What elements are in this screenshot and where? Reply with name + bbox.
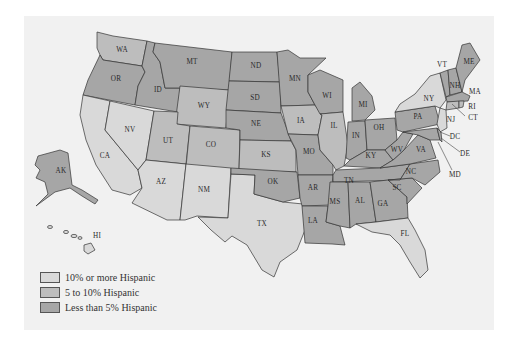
- label-ND: ND: [251, 62, 262, 70]
- label-SC: SC: [392, 184, 401, 192]
- legend-item-low: Less than 5% Hispanic: [40, 300, 157, 315]
- label-MD: MD: [449, 171, 461, 179]
- state-NJ: [437, 108, 447, 132]
- legend-swatch-mid: [40, 287, 60, 298]
- label-KY: KY: [366, 152, 377, 160]
- legend-label-mid: 5 to 10% Hispanic: [65, 287, 139, 298]
- label-AR: AR: [308, 184, 318, 192]
- label-NC: NC: [406, 168, 416, 176]
- label-DE: DE: [460, 150, 470, 158]
- state-AK: [35, 150, 98, 206]
- legend-item-high: 10% or more Hispanic: [40, 270, 157, 285]
- state-AZ: [132, 160, 186, 220]
- label-MN: MN: [289, 75, 302, 83]
- legend-item-mid: 5 to 10% Hispanic: [40, 285, 157, 300]
- label-ME: ME: [463, 58, 475, 66]
- legend-label-low: Less than 5% Hispanic: [65, 302, 157, 313]
- state-FL: [356, 218, 428, 278]
- label-NV: NV: [125, 126, 136, 134]
- state-RI: [459, 101, 464, 108]
- label-MT: MT: [186, 58, 198, 66]
- label-NJ: NJ: [447, 116, 455, 124]
- label-UT: UT: [163, 137, 173, 145]
- label-NE: NE: [251, 120, 261, 128]
- label-CT: CT: [468, 114, 478, 122]
- label-HI: HI: [93, 232, 101, 240]
- label-MA: MA: [469, 88, 482, 96]
- label-VT: VT: [437, 61, 447, 69]
- label-WV: WV: [391, 146, 404, 154]
- legend-swatch-low: [40, 302, 60, 313]
- label-IA: IA: [297, 117, 306, 125]
- label-NH: NH: [450, 82, 461, 90]
- label-ID: ID: [154, 86, 162, 94]
- label-WI: WI: [322, 92, 332, 100]
- legend-swatch-high: [40, 272, 60, 283]
- label-NM: NM: [198, 186, 210, 194]
- label-AL: AL: [355, 197, 365, 205]
- label-OH: OH: [374, 124, 385, 132]
- label-LA: LA: [308, 217, 319, 225]
- label-SD: SD: [250, 94, 260, 102]
- label-MI: MI: [358, 101, 368, 109]
- label-TN: TN: [344, 177, 355, 185]
- label-TX: TX: [257, 220, 268, 228]
- map-legend: 10% or more Hispanic 5 to 10% Hispanic L…: [40, 270, 157, 315]
- state-HI: [48, 226, 96, 255]
- label-IL: IL: [330, 122, 337, 130]
- label-MO: MO: [303, 148, 315, 156]
- state-NY: [395, 73, 446, 112]
- label-NY: NY: [424, 95, 435, 103]
- label-AZ: AZ: [156, 178, 166, 186]
- label-FL: FL: [401, 230, 410, 238]
- label-MS: MS: [330, 198, 341, 206]
- label-RI: RI: [468, 103, 476, 111]
- label-OR: OR: [111, 75, 121, 83]
- label-CO: CO: [206, 141, 216, 149]
- state-MT: [153, 43, 232, 90]
- label-WY: WY: [198, 102, 211, 110]
- label-KS: KS: [261, 151, 271, 159]
- label-IN: IN: [352, 132, 361, 140]
- label-AK: AK: [56, 167, 67, 175]
- legend-label-high: 10% or more Hispanic: [65, 272, 155, 283]
- label-OK: OK: [268, 178, 279, 186]
- label-WA: WA: [116, 46, 128, 54]
- label-GA: GA: [378, 200, 389, 208]
- label-CA: CA: [100, 152, 111, 160]
- label-DC: DC: [450, 133, 460, 141]
- label-PA: PA: [414, 113, 424, 121]
- label-VA: VA: [416, 146, 426, 154]
